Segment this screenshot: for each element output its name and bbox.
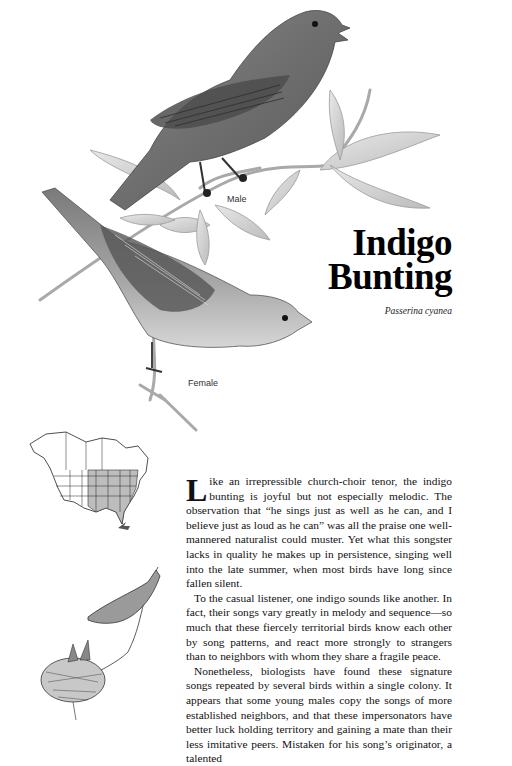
drop-cap: L	[186, 476, 207, 503]
page-title: Indigo Bunting	[300, 226, 452, 294]
scientific-name: Passerina cyanea	[330, 306, 452, 316]
female-caption: Female	[188, 378, 218, 388]
article-body: Like an irrepressible church-choir tenor…	[186, 474, 452, 766]
breeding-range	[88, 470, 138, 524]
male-caption: Male	[227, 194, 247, 204]
female-bunting	[42, 188, 312, 372]
title-line-2: Bunting	[300, 260, 452, 294]
paragraph-1: Like an irrepressible church-choir tenor…	[186, 474, 452, 591]
range-map	[26, 428, 156, 533]
title-line-1: Indigo	[300, 226, 452, 260]
bunting-illustration	[0, 0, 512, 440]
nest-illustration	[18, 562, 168, 722]
paragraph-2: To the casual listener, one indigo sound…	[186, 591, 452, 664]
paragraph-3: Nonetheless, biologists have found these…	[186, 664, 452, 766]
paragraph-1-text: ike an irrepressible church-choir tenor,…	[186, 475, 452, 589]
